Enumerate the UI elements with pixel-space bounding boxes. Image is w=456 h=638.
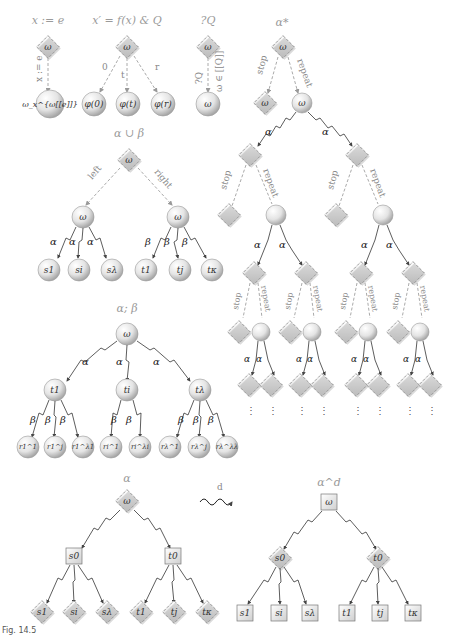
panel-title: α ∪ β [114, 127, 144, 140]
leaf-node: rλ^1 [161, 443, 179, 451]
mid-node: s0 [275, 553, 286, 563]
edge-label: β [29, 414, 36, 425]
ellipsis: ⋮ [246, 405, 256, 416]
leaf-node: ri^λi [131, 443, 149, 451]
root-node: ω [123, 42, 131, 52]
ellipsis: ⋮ [375, 405, 385, 416]
edge-label: stop [390, 292, 402, 311]
leaf-node: si [70, 607, 78, 617]
panel-title: ?Q [201, 14, 216, 27]
edge-label: repeat [368, 167, 388, 199]
leaf-node: rλ^j [191, 443, 208, 451]
edge-label: r [155, 62, 160, 72]
edge-label: β [110, 414, 117, 425]
root-node: ω [123, 496, 131, 506]
root-node: ω [325, 497, 333, 507]
edge-label: α [50, 236, 57, 247]
game-tree-diagram: x := e ω x := e ω_x^{ω[[e]]} x′ = f(x) &… [0, 0, 456, 626]
edge-label: β [192, 414, 199, 425]
leaf-node: si [75, 265, 83, 275]
leaf-node: sλ [305, 608, 315, 618]
leaf-node: sλ [107, 265, 117, 275]
edge-label: α [296, 354, 302, 364]
child-node: ω_x^{ω[[e]]} [22, 100, 78, 109]
edge-label: t [121, 70, 125, 80]
edge-label: ω ∈ [[Q]] [214, 51, 224, 92]
edge-label: β [144, 236, 151, 247]
edge-label: repeat [418, 285, 432, 313]
edge-label: 0 [102, 62, 108, 72]
node: ω [261, 98, 269, 108]
panel-dual-left: α ω s0 t0 s1 si sλ t1 tj tκ [31, 472, 220, 625]
edge-label: stop [338, 292, 350, 311]
mid-node: tλ [195, 385, 204, 395]
panel-test: ?Q ω ?Q ω ∈ [[Q]] ω [194, 14, 224, 116]
panel-title: x′ = f(x) & Q [92, 14, 162, 27]
leaf-node: tj [377, 608, 384, 618]
root-node: ω [123, 329, 131, 339]
edge-label: β [44, 414, 51, 425]
edge-label: x := e [34, 55, 44, 82]
leaf-node: t1 [141, 265, 150, 275]
edge-label: stop [283, 292, 295, 311]
leaf-node: rλ^λλ [216, 443, 239, 451]
leaf-node: t1 [342, 608, 351, 618]
ellipsis: ⋮ [353, 405, 363, 416]
child-node: φ(0) [84, 99, 104, 109]
edge-label: stop [254, 54, 269, 76]
child-node: ω [204, 99, 212, 109]
panel-title: α; β [117, 302, 138, 315]
edge-label: β [177, 414, 184, 425]
leaf-node: r1^j [47, 443, 64, 451]
edge-label: α [307, 354, 313, 364]
panel-title: α [123, 472, 131, 485]
node: ω [298, 98, 306, 108]
edge-label: α [69, 236, 76, 247]
edge-label: α [265, 126, 272, 137]
edge-label: α [254, 239, 261, 250]
panel-sequence: α; β ω α α α t1 ti tλ β β β β β β β β [17, 302, 238, 458]
dual-transform-arrow: d [200, 482, 232, 505]
edge-label: β [207, 414, 214, 425]
ellipsis: ⋮ [297, 405, 307, 416]
edge-label: β [181, 236, 188, 247]
edge-label: α [322, 126, 329, 137]
leaf-node: s1 [37, 607, 47, 617]
leaf-node: r1^λ1 [72, 443, 95, 451]
edge-label: α [363, 354, 369, 364]
node: ω [174, 212, 182, 222]
leaf-node: si [275, 608, 283, 618]
edge-label: stop [218, 169, 233, 191]
edge-label: α [82, 356, 89, 367]
edge-label: repeat [295, 57, 315, 89]
leaf-node: tκ [207, 265, 217, 275]
ellipsis: ⋮ [319, 405, 329, 416]
edge-label: α [361, 239, 368, 250]
child-node: φ(r) [154, 99, 172, 109]
panel-repeat: α* ω stop repeat ω ω α α stop repeat sto… [218, 16, 443, 416]
leaf-node: sλ [102, 607, 112, 617]
edge-label: stop [325, 169, 340, 191]
leaf-node: tj [177, 265, 184, 275]
leaf-node: tj [171, 607, 178, 617]
edge-label: ?Q [194, 72, 204, 84]
edge-label: β [59, 414, 66, 425]
panel-assign: x := e ω x := e ω_x^{ω[[e]]} [22, 14, 78, 118]
child-node: φ(t) [120, 99, 137, 109]
edge-label: stop [231, 292, 243, 311]
edge-label: β [163, 236, 170, 247]
edge-label: α [116, 356, 123, 367]
root-node: ω [279, 42, 287, 52]
leaf-node: ri^1 [103, 443, 119, 451]
edge-label: α [256, 354, 262, 364]
mid-node: s0 [69, 551, 80, 561]
panel-choice: α ∪ β ω left right ω ω α α α β β β s1 si… [38, 127, 223, 281]
panel-title: α^d [317, 476, 341, 489]
leaf-node: t1 [136, 607, 145, 617]
edge-label: α [386, 239, 393, 250]
mid-node: ti [124, 385, 131, 395]
leaf-node: r1^1 [19, 443, 37, 451]
root-node: ω [204, 42, 212, 52]
arrow-label: d [217, 482, 223, 492]
panel-ode: x′ = f(x) & Q ω 0 t r φ(0) φ(t) φ(r) [82, 14, 175, 116]
